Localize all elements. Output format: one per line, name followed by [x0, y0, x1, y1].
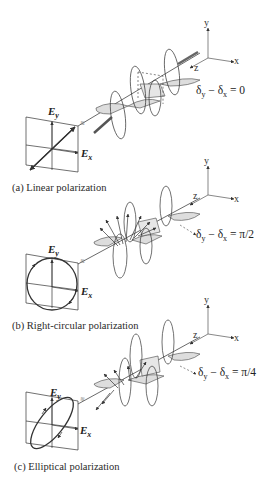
axis-label-y-b: y	[204, 155, 209, 166]
axis-label-z-a: z	[194, 62, 198, 73]
caption-b: (b) Right-circular polarization	[12, 320, 139, 331]
polarization-diagram: ≋	[0, 0, 262, 488]
field-frame-b	[26, 254, 78, 310]
phase-equation-b: δy − δx = π/2	[196, 228, 254, 243]
axis-label-x-a: x	[234, 55, 239, 66]
caption-c: (c) Elliptical polarization	[14, 461, 120, 472]
axis-label-z-b: z	[193, 190, 197, 201]
ex-label-a: Ex	[81, 147, 92, 162]
axis-label-y-c: y	[204, 294, 209, 305]
panel-a-linear: ≋	[26, 28, 234, 172]
ey-label-b: Ey	[48, 243, 59, 258]
eye-icon: ≋	[80, 120, 85, 126]
ex-label-b: Ex	[81, 285, 92, 300]
axis-label-x-c: x	[234, 332, 239, 343]
eye-icon: ≋	[80, 396, 85, 402]
field-frame-a	[26, 117, 78, 172]
axis-label-z-c: z	[193, 329, 197, 340]
eye-icon: ≋	[80, 258, 85, 264]
ey-label-a: Ey	[48, 105, 59, 120]
caption-a: (a) Linear polarization	[12, 182, 106, 193]
axis-label-x-b: x	[234, 193, 239, 204]
phase-equation-c: δy − δx = π/4	[198, 366, 256, 381]
ex-label-c: Ex	[80, 424, 91, 439]
axis-label-y-a: y	[204, 17, 209, 28]
phase-equation-a: δy − δx = 0	[196, 84, 245, 99]
ey-label-c: Ey	[50, 386, 61, 401]
